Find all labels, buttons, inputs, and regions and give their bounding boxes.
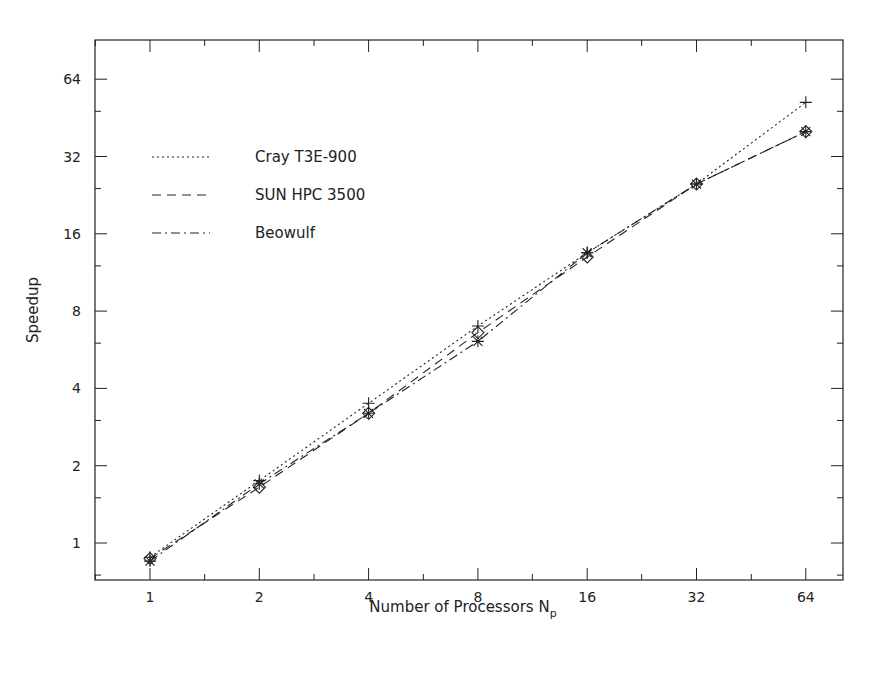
y-tick-label: 2	[72, 458, 81, 474]
asterisk-marker-icon	[691, 178, 703, 190]
y-tick-label: 8	[72, 303, 81, 319]
x-tick-label: 1	[146, 589, 155, 605]
asterisk-marker-icon	[363, 407, 375, 419]
legend-label: SUN HPC 3500	[255, 186, 365, 204]
asterisk-marker-icon	[800, 126, 812, 138]
series-cray-t3e-900	[144, 96, 812, 563]
asterisk-marker-icon	[581, 247, 593, 259]
speedup-chart: 1248163264 1248163264 Cray T3E-900SUN HP…	[0, 0, 896, 678]
legend-item: Beowulf	[152, 224, 316, 242]
y-tick-label: 1	[72, 535, 81, 551]
plot-frame	[95, 40, 843, 580]
asterisk-marker-icon	[253, 478, 265, 490]
x-axis-ticks: 1248163264	[95, 40, 814, 605]
x-tick-label: 2	[255, 589, 264, 605]
y-tick-label: 64	[63, 71, 81, 87]
asterisk-marker-icon	[144, 555, 156, 567]
y-axis-title: Speedup	[24, 277, 42, 343]
legend-item: SUN HPC 3500	[152, 186, 365, 204]
plus-marker-icon	[800, 96, 812, 108]
y-tick-label: 32	[63, 149, 81, 165]
y-tick-label: 4	[72, 380, 81, 396]
x-tick-label: 16	[578, 589, 596, 605]
x-tick-label: 64	[797, 589, 815, 605]
legend-label: Cray T3E-900	[255, 148, 357, 166]
x-axis-title: Number of Processors Np	[369, 598, 556, 620]
series-beowulf	[144, 126, 812, 568]
series-layer	[144, 96, 812, 567]
asterisk-marker-icon	[472, 335, 484, 347]
legend-item: Cray T3E-900	[152, 148, 357, 166]
legend-label: Beowulf	[255, 224, 316, 242]
legend: Cray T3E-900SUN HPC 3500Beowulf	[152, 148, 365, 242]
x-tick-label: 32	[688, 589, 706, 605]
y-axis-ticks: 1248163264	[63, 71, 843, 575]
y-tick-label: 16	[63, 226, 81, 242]
